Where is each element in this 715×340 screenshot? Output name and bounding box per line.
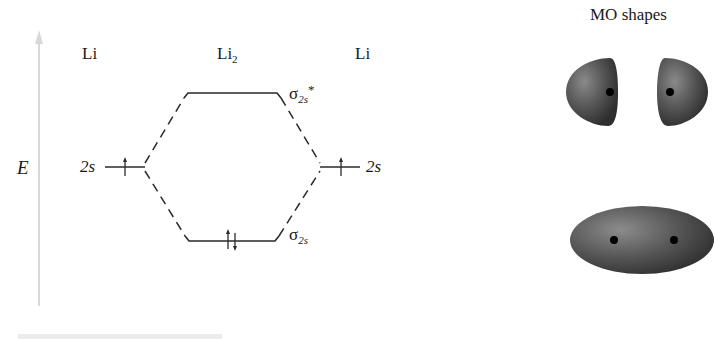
correlation-lines bbox=[145, 98, 320, 236]
right-atom-label: Li bbox=[355, 45, 370, 62]
nucleus-dot bbox=[666, 88, 674, 96]
spin-down-icon bbox=[233, 246, 237, 251]
bonding-mo-shape bbox=[570, 206, 714, 274]
antibonding-mo-shape bbox=[566, 58, 708, 126]
mo-shapes-title: MO shapes bbox=[590, 6, 667, 23]
nucleus-dot bbox=[606, 88, 614, 96]
left-atom-label: Li bbox=[82, 45, 97, 62]
bonding-mo-label: σ2s bbox=[289, 226, 308, 243]
arrow-up-icon bbox=[35, 30, 43, 44]
antibonding-mo-label: σ2s* bbox=[289, 85, 314, 102]
spin-up-icon bbox=[123, 157, 127, 162]
energy-axis bbox=[35, 30, 43, 306]
molecule-label: Li2 bbox=[217, 45, 238, 62]
spin-up-icon bbox=[226, 229, 230, 234]
right-2s-label: 2s bbox=[366, 158, 381, 175]
nucleus-dot bbox=[610, 236, 618, 244]
faint-caption-bar bbox=[18, 334, 222, 339]
energy-axis-label: E bbox=[17, 158, 29, 177]
spin-up-icon bbox=[339, 157, 343, 162]
antibonding-level bbox=[184, 93, 281, 98]
nucleus-dot bbox=[670, 236, 678, 244]
right-2s-level bbox=[320, 157, 360, 176]
left-2s-level bbox=[105, 157, 145, 176]
left-2s-label: 2s bbox=[80, 158, 95, 175]
bonding-level bbox=[185, 229, 279, 251]
